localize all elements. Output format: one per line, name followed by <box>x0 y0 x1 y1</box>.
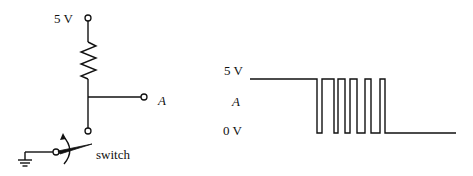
resistor-icon <box>81 42 96 79</box>
switch-contact-terminal-icon <box>85 128 91 134</box>
waveform: 5 V A 0 V <box>223 63 456 138</box>
ground-icon <box>18 152 32 166</box>
supply-voltage-label: 5 V <box>54 11 74 26</box>
signal-label: A <box>231 94 240 109</box>
switch-label: switch <box>96 147 130 162</box>
low-level-label: 0 V <box>223 123 243 138</box>
high-level-label: 5 V <box>224 63 244 78</box>
circuit: 5 V A switch <box>18 11 166 166</box>
diagram-canvas: 5 V A switch 5 V A <box>0 0 473 176</box>
switch-icon <box>53 133 92 164</box>
output-label: A <box>157 93 166 108</box>
signal-trace <box>250 79 456 133</box>
output-terminal-icon <box>141 94 147 100</box>
supply-terminal-icon <box>85 15 91 21</box>
